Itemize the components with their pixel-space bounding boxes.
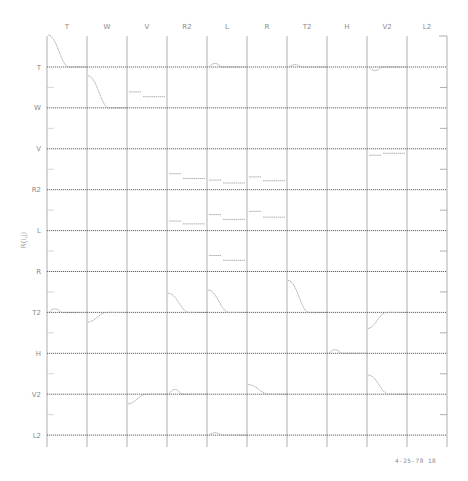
correlation-curve-v2-v [128,394,167,404]
correlation-curve-w-v [129,92,165,97]
correlation-curve-l-r [249,211,285,217]
correlation-curve-t-l [209,63,247,67]
column-label-h: H [344,23,349,31]
correlation-curve-t2-w [88,312,127,322]
correlation-curves [48,35,407,435]
correlation-curve-h-h [329,350,367,354]
correlation-curve-r-l [209,256,245,261]
row-label-t2: T2 [31,309,41,317]
correlation-curve-t2-l [208,290,247,312]
correlation-curve-l-l [209,215,245,220]
correlation-curve-t-v2 [369,67,407,71]
column-label-l2: L2 [423,23,431,31]
correlation-curve-t2-v2 [368,312,407,328]
column-label-l: L [225,23,229,31]
row-label-r2: R2 [32,186,41,194]
column-label-v2: V2 [382,23,391,31]
column-label-v: V [145,23,150,31]
row-label-l: L [37,227,41,235]
correlation-curve-r2-r2 [169,174,205,179]
correlation-curve-l-r2 [169,221,205,224]
column-label-w: W [104,23,111,31]
row-label-w: W [34,104,41,112]
column-label-r: R [265,23,270,31]
correlation-curve-t2-t [49,309,87,313]
correlation-curve-v2-v2 [368,375,407,394]
correlation-curve-w-w [88,76,127,108]
row-label-l2: L2 [33,432,41,440]
column-label-r2: R2 [182,23,191,31]
correlation-curve-r2-r [249,177,285,181]
column-label-t: T [64,23,70,31]
correlation-curve-t2-t2 [288,280,327,312]
row-label-v: V [36,145,41,153]
row-label-t: T [36,64,42,72]
correlation-matrix-plot: TWVR2LRT2HV2L2 TWVR2LRT2HV2L2 R(i,j) [0,0,468,481]
grid-lines [47,36,447,447]
correlation-curve-v2-r [248,385,287,395]
correlation-curve-t-t [48,35,87,67]
y-axis-title: R(i,j) [20,232,28,249]
correlation-curve-v2-r2 [169,389,207,394]
column-labels: TWVR2LRT2HV2L2 [64,23,431,31]
correlation-curve-r2-l [209,180,245,183]
row-label-v2: V2 [32,391,41,399]
column-label-t2: T2 [302,23,312,31]
row-label-h: H [36,350,41,358]
correlation-curve-v-v2 [369,153,405,155]
correlation-curve-t2-r2 [168,293,207,312]
date-stamp: 4-25-78 18 [395,457,436,464]
row-label-r: R [36,268,41,276]
row-labels: TWVR2LRT2HV2L2 [31,64,41,440]
